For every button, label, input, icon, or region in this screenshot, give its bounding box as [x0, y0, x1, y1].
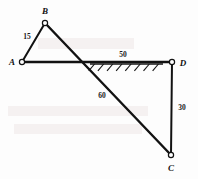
support-hatch-mark: [153, 64, 159, 71]
node-label-C: C: [168, 163, 175, 173]
joint-B: [42, 20, 47, 25]
background-watermark: [8, 38, 148, 134]
hatched-ground-support: [89, 64, 163, 71]
member-DC: [171, 62, 172, 155]
node-label-A: A: [8, 57, 15, 67]
diagram-canvas: A B C D 15 60 50 30: [0, 0, 198, 179]
support-hatch-mark: [98, 64, 104, 71]
dimension-label-AD: 50: [119, 50, 127, 59]
joint-C: [168, 152, 173, 157]
support-hatch-mark: [144, 64, 150, 71]
joint-A: [19, 59, 24, 64]
node-label-B: B: [41, 6, 48, 16]
frame-diagram-figure: A B C D 15 60 50 30: [0, 0, 198, 179]
support-hatch-mark: [116, 64, 122, 71]
dimension-label-DC: 30: [178, 103, 186, 112]
support-hatch-mark: [89, 64, 95, 71]
dimension-label-BC: 60: [98, 91, 106, 100]
support-hatch-mark: [134, 64, 140, 71]
node-label-D: D: [179, 58, 187, 68]
node-label-group: A B C D: [8, 6, 187, 173]
support-hatch-mark: [125, 64, 131, 71]
dimension-label-AB: 15: [23, 32, 31, 41]
joint-D: [169, 59, 174, 64]
support-hatch-mark: [107, 64, 113, 71]
